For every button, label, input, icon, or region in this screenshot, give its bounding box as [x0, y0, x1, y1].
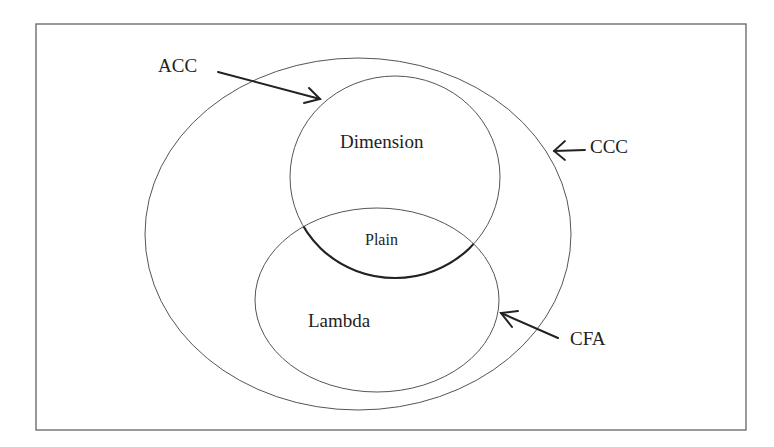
acc-arrow-icon	[218, 72, 320, 103]
venn-diagram-svg	[0, 0, 774, 447]
cfa-label: CFA	[570, 329, 606, 348]
ccc-arrow-icon	[554, 141, 585, 160]
plain-label: Plain	[365, 232, 398, 248]
dimension-label: Dimension	[340, 132, 423, 151]
cfa-arrow-icon	[501, 311, 558, 338]
diagram-frame	[36, 24, 746, 430]
diagram-canvas: ACC CCC CFA Dimension Plain Lambda	[0, 0, 774, 447]
ccc-label: CCC	[590, 137, 628, 156]
acc-label: ACC	[158, 56, 197, 75]
lambda-label: Lambda	[308, 311, 370, 330]
ccc-ellipse	[145, 58, 571, 410]
